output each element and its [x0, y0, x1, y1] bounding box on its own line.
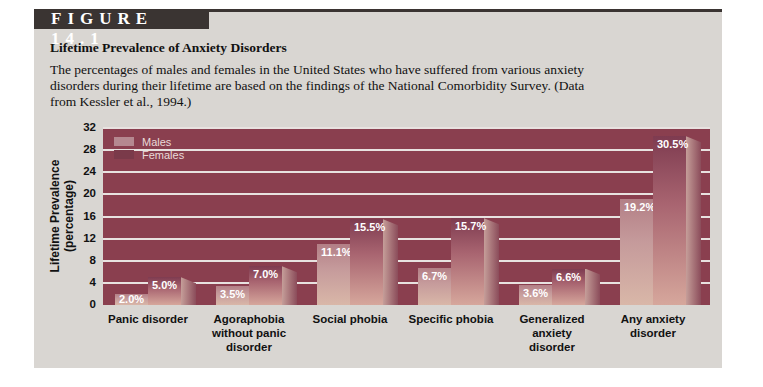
bar-value-label: 6.6%	[556, 271, 581, 283]
bar-3d-side	[383, 219, 398, 305]
y-tick-label: 28	[68, 143, 96, 155]
legend-swatch-females	[114, 150, 134, 159]
y-tick-label: 24	[68, 165, 96, 177]
bar-males: 11.1%	[317, 244, 350, 305]
bar-males: 2.0%	[115, 294, 148, 305]
y-tick-label: 12	[68, 232, 96, 244]
bar-3d-side	[585, 269, 600, 306]
y-tick-label: 0	[68, 298, 96, 310]
bar-value-label: 11.1%	[321, 246, 352, 258]
x-tick-label: Social phobia	[295, 312, 405, 326]
y-tick-label: 16	[68, 210, 96, 222]
bar-3d-side	[282, 266, 297, 305]
bar-females: 30.5%	[653, 136, 686, 305]
legend: Males Females	[114, 135, 184, 161]
bar-value-label: 3.6%	[523, 287, 548, 299]
gridline	[103, 260, 710, 262]
bar-value-label: 7.0%	[253, 268, 278, 280]
legend-swatch-males	[114, 137, 134, 146]
gridline	[103, 193, 710, 195]
y-tick-label: 20	[68, 187, 96, 199]
bar-value-label: 2.0%	[119, 293, 144, 305]
bar-value-label: 19.2%	[624, 201, 655, 213]
x-tick-label: Generalized anxiety disorder	[512, 312, 592, 354]
bar-value-label: 30.5%	[657, 138, 688, 150]
bar-males: 19.2%	[620, 199, 653, 305]
bar-value-label: 15.7%	[455, 220, 486, 232]
y-tick-label: 4	[68, 276, 96, 288]
figure-description: The percentages of males and females in …	[50, 62, 610, 110]
bar-3d-side	[686, 136, 701, 305]
legend-item-females: Females	[114, 148, 184, 161]
x-tick-label: Specific phobia	[396, 312, 506, 326]
y-tick-label: 32	[68, 121, 96, 133]
y-axis-label-line1: Lifetime Prevalence	[48, 156, 62, 276]
gridline	[103, 149, 710, 151]
bar-males: 6.7%	[418, 268, 451, 305]
x-tick-label: Agoraphobia without panic disorder	[204, 312, 294, 354]
legend-label-females: Females	[142, 149, 184, 161]
bar-males: 3.5%	[216, 286, 249, 305]
x-tick-label: Any anxiety disorder	[608, 312, 698, 340]
bar-value-label: 15.5%	[354, 221, 385, 233]
figure-label: FIGURE 14.1	[34, 9, 209, 29]
gridline	[103, 127, 710, 129]
bar-females: 15.7%	[451, 218, 484, 305]
legend-item-males: Males	[114, 135, 184, 148]
gridline	[103, 171, 710, 173]
bar-females: 6.6%	[552, 269, 585, 306]
legend-label-males: Males	[142, 136, 171, 148]
plot-area: Males Females 2.0%5.0%3.5%7.0%11.1%15.5%…	[103, 128, 710, 305]
figure-title: Lifetime Prevalence of Anxiety Disorders	[50, 40, 287, 56]
x-tick-label: Panic disorder	[93, 312, 203, 326]
gridline	[103, 238, 710, 240]
y-tick-label: 8	[68, 254, 96, 266]
bar-males: 3.6%	[519, 285, 552, 305]
bar-females: 5.0%	[148, 277, 181, 305]
bar-value-label: 6.7%	[422, 270, 447, 282]
bar-females: 15.5%	[350, 219, 383, 305]
bar-females: 7.0%	[249, 266, 282, 305]
gridline	[103, 216, 710, 218]
bar-value-label: 5.0%	[152, 279, 177, 291]
bar-value-label: 3.5%	[220, 288, 245, 300]
bar-3d-side	[484, 218, 499, 305]
